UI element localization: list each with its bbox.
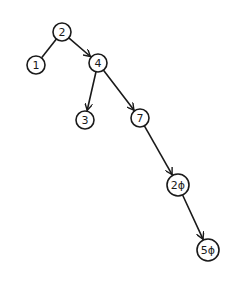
edge-n4-n7 [104,70,134,110]
edge-n2-n1 [42,39,56,57]
node-label: 2ϕ [171,179,185,192]
node-label: 3 [82,114,89,127]
node-label: 7 [137,112,144,125]
tree-svg: 214372ϕ5ϕ [0,0,245,283]
node-label: 5ϕ [201,244,215,257]
edges-layer [42,38,203,239]
edge-n20-n50 [183,195,203,239]
edge-n7-n20 [144,126,172,175]
nodes-layer: 214372ϕ5ϕ [27,23,219,261]
node-label: 1 [33,59,40,72]
node-label: 4 [95,57,102,70]
tree-node-n3: 3 [76,111,94,129]
tree-node-n4: 4 [89,54,107,72]
node-label: 2 [59,26,66,39]
tree-node-n1: 1 [27,56,45,74]
tree-node-n7: 7 [131,109,149,127]
tree-node-n2: 2 [53,23,71,41]
tree-node-n50: 5ϕ [197,239,219,261]
tree-node-n20: 2ϕ [167,174,189,196]
tree-diagram: 214372ϕ5ϕ [0,0,245,283]
edge-n4-n3 [87,72,96,111]
edge-n2-n4 [69,38,91,57]
